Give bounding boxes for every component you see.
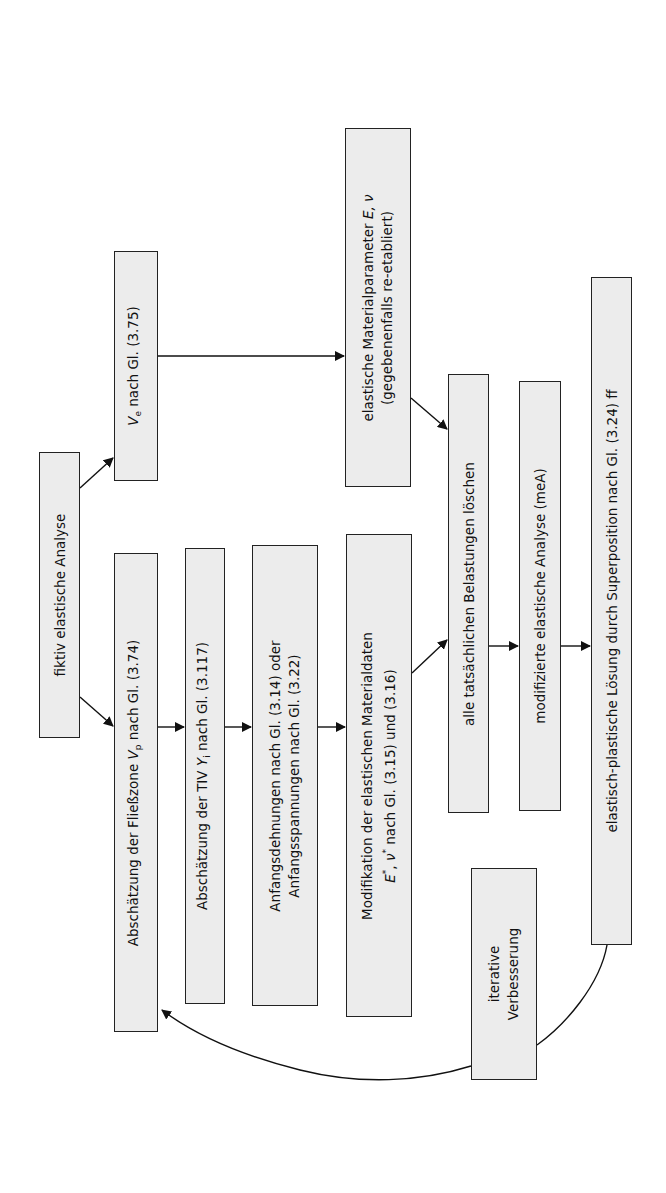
arc-superpos-to-iterativ: [537, 945, 607, 1045]
node-modifizierte-elastische-analyse: modifizierte elastische Analyse (meA): [519, 381, 561, 811]
node-fiktiv-elastische-analyse: fiktiv elastische Analyse: [39, 452, 80, 738]
arrow-modif-to-loeschen: [412, 640, 447, 673]
node-label: alle tatsächlichen Belastungen löschen: [459, 462, 478, 726]
node-label: Ve nach Gl. (3.75): [124, 306, 148, 426]
node-belastungen-loeschen: alle tatsächlichen Belastungen löschen: [448, 374, 489, 813]
node-iterative-verbesserung: iterative Verbesserung: [471, 868, 537, 1080]
node-label: Abschätzung der TIV Yi nach Gl. (3.117): [193, 642, 217, 910]
node-elastische-materialparameter: elastische Materialparameter E, ν (gegeb…: [345, 128, 411, 487]
node-label: Abschätzung der Fließzone Vp nach Gl. (3…: [124, 639, 148, 945]
node-label: iterative Verbesserung: [485, 928, 523, 1021]
node-ve-nach-gl: Ve nach Gl. (3.75): [114, 251, 158, 481]
node-label: modifizierte elastische Analyse (meA): [531, 468, 550, 724]
arrow-start-to-vp: [80, 697, 113, 726]
node-modifikation-materialdaten: Modifikation der elastischen Materialdat…: [346, 534, 412, 1017]
node-elastisch-plastische-loesung: elastisch-plastische Lösung durch Superp…: [591, 277, 632, 945]
connector-layer: [0, 0, 666, 1193]
node-abschaetzung-tiv: Abschätzung der TIV Yi nach Gl. (3.117): [185, 548, 225, 1004]
node-label: Modifikation der elastischen Materialdat…: [358, 632, 400, 920]
node-label: elastisch-plastische Lösung durch Superp…: [602, 389, 621, 832]
node-label: elastische Materialparameter E, ν (gegeb…: [359, 194, 397, 421]
node-label: Anfangsdehnungen nach Gl. (3.14) oder An…: [266, 640, 304, 911]
arc-iterativ-to-vp: [162, 1010, 471, 1080]
node-anfangsdehnungen: Anfangsdehnungen nach Gl. (3.14) oder An…: [252, 545, 318, 1006]
node-label: fiktiv elastische Analyse: [50, 514, 69, 677]
node-abschaetzung-fliesszone: Abschätzung der Fließzone Vp nach Gl. (3…: [114, 553, 158, 1032]
arrow-material-to-loeschen: [411, 398, 447, 429]
arrow-start-to-ve: [80, 458, 113, 488]
